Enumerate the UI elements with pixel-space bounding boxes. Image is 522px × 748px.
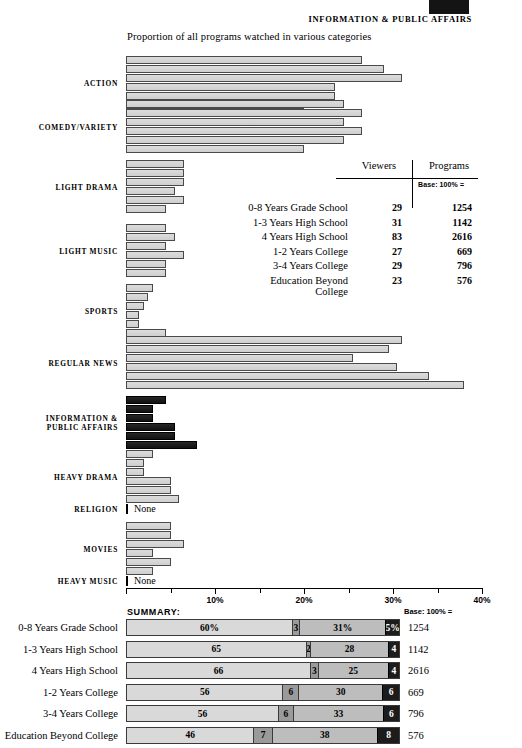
bar — [126, 441, 197, 449]
summary-segment: 60% — [127, 620, 292, 635]
category-label: ACTION — [8, 79, 118, 88]
bar — [126, 169, 184, 177]
bar — [126, 284, 153, 292]
axis-tick-label: 20% — [295, 595, 312, 605]
summary-segment: 56 — [127, 685, 282, 700]
none-label: None — [134, 575, 156, 586]
bar — [126, 381, 464, 389]
table-header-row: Viewers Programs — [246, 160, 478, 178]
bar — [126, 56, 362, 64]
bar — [126, 558, 171, 566]
category-label: REGULAR NEWS — [8, 359, 118, 368]
bar — [126, 311, 139, 319]
summary-segment: 25 — [319, 663, 388, 678]
summary-segment: 3 — [310, 663, 318, 678]
chart-subtitle: Proportion of all programs watched in va… — [127, 31, 371, 42]
summary-segment: 3 — [292, 620, 300, 635]
category-label: INFORMATION &PUBLIC AFFAIRS — [8, 414, 118, 432]
summary-row: Education Beyond College467388576 — [0, 726, 522, 745]
summary-segment: 46 — [127, 728, 253, 743]
summary-segment: 33 — [294, 706, 383, 721]
table-row: 1-3 Years High School311142 — [246, 217, 478, 232]
axis-tick — [260, 588, 261, 593]
summary-segment: 6 — [382, 685, 399, 700]
bar — [126, 109, 362, 117]
bar — [126, 405, 153, 413]
summary-row-label: 1-2 Years College — [0, 683, 118, 702]
bar — [126, 233, 175, 241]
summary-segment: 5% — [385, 620, 399, 635]
summary-segment: 6 — [282, 685, 299, 700]
bar — [126, 260, 166, 268]
axis-tick — [482, 588, 483, 594]
category-label: LIGHT DRAMA — [8, 183, 118, 192]
bar — [126, 136, 344, 144]
axis-tick — [171, 588, 172, 593]
bar-stack — [126, 396, 197, 450]
bar — [126, 486, 171, 494]
summary-stacked-bar: 467388 — [126, 727, 400, 744]
axis-tick-label: 10% — [206, 595, 223, 605]
summary-base-value: 576 — [408, 726, 454, 745]
summary-stacked-bar: 566306 — [126, 684, 400, 701]
table-cell-programs: 1254 — [414, 202, 472, 213]
summary-segment: 38 — [273, 728, 377, 743]
bar — [126, 127, 362, 135]
bar-stack — [126, 160, 184, 214]
bar — [126, 336, 402, 344]
summary-segment: 6 — [278, 706, 294, 721]
bar — [126, 302, 144, 310]
bar-stack — [126, 224, 184, 278]
summary-segment: 28 — [311, 642, 388, 657]
bar — [126, 450, 153, 458]
bar-stack — [126, 284, 166, 338]
bar — [126, 251, 184, 259]
bar — [126, 224, 166, 232]
summary-base-label: Base: 100% = — [404, 607, 452, 616]
bar — [126, 242, 166, 250]
summary-row: 0-8 Years Grade School60%331%5%1254 — [0, 618, 522, 637]
category-label: LIGHT MUSIC — [8, 247, 118, 256]
bar — [126, 432, 175, 440]
summary-segment: 65 — [127, 642, 306, 657]
bar — [126, 100, 344, 108]
summary-segment: 66 — [127, 663, 310, 678]
bar — [126, 354, 353, 362]
summary-segment: 30 — [299, 685, 382, 700]
summary-row-label: Education Beyond College — [0, 726, 118, 745]
bar — [126, 495, 179, 503]
category-label: RELIGION — [8, 505, 118, 514]
summary-base-value: 1142 — [408, 640, 454, 659]
bar — [126, 320, 139, 328]
summary-row-label: 1-3 Years High School — [0, 640, 118, 659]
viewers-programs-table: Viewers Programs Base: 100% = 0-8 Years … — [246, 160, 478, 265]
bar — [126, 477, 171, 485]
bar — [126, 414, 153, 422]
summary-row-label: 4 Years High School — [0, 661, 118, 680]
axis-tick — [304, 588, 305, 594]
summary-segment: 4 — [388, 642, 399, 657]
summary-stacked-bar: 663254 — [126, 662, 400, 679]
bar-stack — [126, 336, 464, 390]
table-cell-name: 1-3 Years High School — [236, 217, 348, 228]
axis-tick — [349, 588, 350, 593]
axis-tick — [393, 588, 394, 594]
bar — [126, 83, 335, 91]
bar — [126, 160, 184, 168]
summary-segment: 31% — [300, 620, 385, 635]
bar — [126, 468, 144, 476]
table-row: 1-2 Years College27669 — [246, 246, 478, 261]
bar — [126, 423, 175, 431]
axis-tick — [438, 588, 439, 593]
summary-row-label: 3-4 Years College — [0, 704, 118, 723]
table-row: 4 Years High School832616 — [246, 231, 478, 246]
summary-segment: 4 — [388, 663, 399, 678]
category-label: SPORTS — [8, 307, 118, 316]
table-cell-viewers: 31 — [350, 217, 402, 228]
bar-stack — [126, 576, 128, 587]
table-cell-viewers: 29 — [350, 260, 402, 271]
none-marker — [126, 576, 128, 586]
bar — [126, 459, 144, 467]
summary-row: 1-2 Years College566306669 — [0, 683, 522, 702]
axis-tick-label: 30% — [384, 595, 401, 605]
